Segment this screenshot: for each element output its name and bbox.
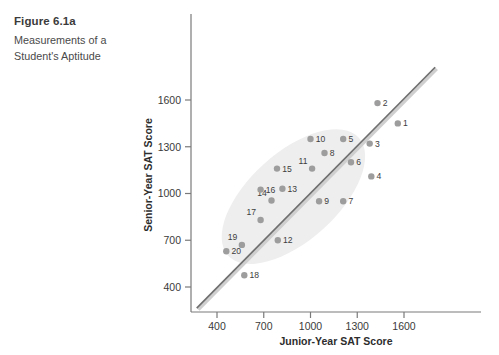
data-point (223, 248, 229, 254)
data-point (279, 186, 285, 192)
data-point-label: 19 (228, 232, 238, 242)
data-point (340, 136, 346, 142)
data-point-label: 5 (348, 134, 353, 144)
data-point-label: 15 (282, 164, 292, 174)
data-point-label: 8 (330, 148, 335, 158)
data-point-label: 12 (283, 235, 293, 245)
data-point-label: 1 (403, 118, 408, 128)
reference-line (197, 67, 437, 309)
data-point (241, 272, 247, 278)
y-tick-label: 1600 (158, 94, 182, 106)
data-point-label: 20 (232, 246, 242, 256)
data-point (348, 159, 354, 165)
data-point (340, 198, 346, 204)
data-point-label: 16 (266, 185, 276, 195)
data-point-label: 9 (324, 196, 329, 206)
data-point (275, 237, 281, 243)
x-tick-label: 1600 (392, 320, 416, 332)
data-point (316, 198, 322, 204)
chart-canvas: 400700100013001600400700100013001600 123… (0, 0, 499, 355)
y-tick-label: 1300 (158, 141, 182, 153)
data-point-label: 13 (288, 184, 298, 194)
data-point (309, 165, 315, 171)
data-point (321, 150, 327, 156)
data-point-label: 4 (377, 171, 382, 181)
data-point (374, 100, 380, 106)
data-point-label: 18 (250, 270, 260, 280)
data-point-label: 6 (356, 157, 361, 167)
data-point-label: 17 (246, 207, 256, 217)
y-tick-label: 1000 (158, 187, 182, 199)
concentration-ellipse (199, 105, 389, 288)
x-axis-label: Junior-Year SAT Score (279, 335, 392, 347)
x-tick-label: 700 (255, 320, 273, 332)
data-point (395, 120, 401, 126)
data-point-label: 3 (375, 139, 380, 149)
data-point (368, 173, 374, 179)
data-point (257, 217, 263, 223)
data-point-label: 11 (299, 156, 308, 166)
data-point-label: 10 (316, 134, 326, 144)
data-point (307, 136, 313, 142)
x-tick-label: 1300 (346, 320, 370, 332)
scatter-plot: 400700100013001600400700100013001600 123… (0, 0, 499, 355)
data-point-label: 2 (383, 98, 388, 108)
y-axis-label: Senior-Year SAT Score (142, 118, 154, 232)
x-tick-label: 400 (208, 320, 226, 332)
y-tick-label: 400 (163, 281, 181, 293)
data-point (274, 165, 280, 171)
y-tick-label: 700 (163, 234, 181, 246)
data-point-label: 7 (348, 196, 353, 206)
data-point (257, 186, 263, 192)
data-point (367, 140, 373, 146)
x-tick-label: 1000 (299, 320, 323, 332)
data-point (268, 197, 274, 203)
figure-root: Figure 6.1a Measurements of a Student's … (0, 0, 499, 355)
